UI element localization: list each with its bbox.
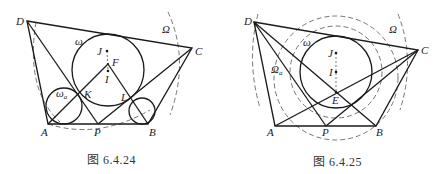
label-C: C xyxy=(195,45,203,57)
line-BF xyxy=(108,64,148,124)
circle-omega-b xyxy=(129,98,155,124)
figure-caption: 图 6.4.25 xyxy=(313,152,362,170)
label-I: I xyxy=(104,73,110,85)
label-I: I xyxy=(328,66,334,78)
label-A: A xyxy=(266,126,274,138)
figure-6-4-25: D C A P B E J I ω Ωa Ω 图 6.4.25 xyxy=(218,0,436,174)
label-C: C xyxy=(421,44,429,56)
label-D: D xyxy=(243,15,252,27)
label-D: D xyxy=(15,15,24,27)
label-L: L xyxy=(120,91,127,103)
label-B: B xyxy=(376,126,383,138)
point-F xyxy=(107,63,109,65)
label-Omega: Ω xyxy=(162,23,170,35)
figure-caption: 图 6.4.24 xyxy=(87,150,136,168)
geometry-diagram-left: D C A P B K L F J I ω ωa Ω xyxy=(0,0,218,174)
label-J: J xyxy=(328,47,334,59)
label-omega: ω xyxy=(303,36,311,48)
label-Omega-a: Ωa xyxy=(271,63,283,77)
label-B: B xyxy=(149,126,156,138)
quadrilateral-ABCD xyxy=(27,21,192,124)
label-A: A xyxy=(40,126,48,138)
label-P: P xyxy=(321,126,329,138)
label-F: F xyxy=(111,56,119,68)
figure-6-4-24: D C A P B K L F J I ω ωa Ω 图 6.4.24 xyxy=(0,0,218,174)
geometry-diagram-right: D C A P B E J I ω Ωa Ω xyxy=(218,0,436,174)
line-CP xyxy=(326,50,418,126)
point-I xyxy=(107,70,110,73)
label-E: E xyxy=(331,94,339,106)
segment-JI xyxy=(107,51,108,71)
label-K: K xyxy=(83,88,92,100)
label-J: J xyxy=(97,45,103,57)
label-omega-a: ωa xyxy=(56,87,68,101)
label-P: P xyxy=(93,126,101,138)
point-E xyxy=(335,91,338,94)
point-J xyxy=(335,52,338,55)
point-J xyxy=(106,50,109,53)
point-I xyxy=(335,71,338,74)
label-omega: ω xyxy=(75,35,83,47)
label-Omega: Ω xyxy=(389,23,397,35)
